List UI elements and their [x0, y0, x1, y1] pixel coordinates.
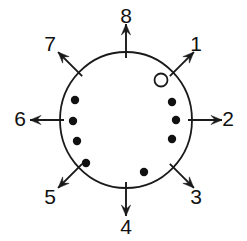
- marker-group: [69, 74, 180, 177]
- dot-bottom-left: [82, 159, 90, 167]
- dot-left-middle: [69, 117, 77, 125]
- direction-label-7: 7: [44, 32, 56, 55]
- direction-label-1: 1: [190, 32, 202, 55]
- direction-arrow-2: [188, 115, 222, 124]
- diagram-canvas: 12345678: [0, 0, 247, 241]
- dot-right-lower: [168, 135, 176, 143]
- dot-bottom-right: [140, 168, 148, 176]
- direction-label-6: 6: [14, 107, 26, 130]
- dot-right-middle: [172, 116, 180, 124]
- dot-left-lower: [73, 137, 81, 145]
- direction-arrow-6: [30, 115, 64, 124]
- direction-label-3: 3: [190, 185, 202, 208]
- direction-label-4: 4: [120, 215, 132, 238]
- circular-direction-diagram: 12345678: [0, 0, 247, 241]
- direction-label-5: 5: [44, 185, 56, 208]
- dot-right-upper: [168, 98, 176, 106]
- direction-label-8: 8: [120, 4, 132, 27]
- direction-label-2: 2: [222, 107, 234, 130]
- dot-left-upper: [71, 96, 79, 104]
- open-marker-upper-right: [155, 74, 168, 87]
